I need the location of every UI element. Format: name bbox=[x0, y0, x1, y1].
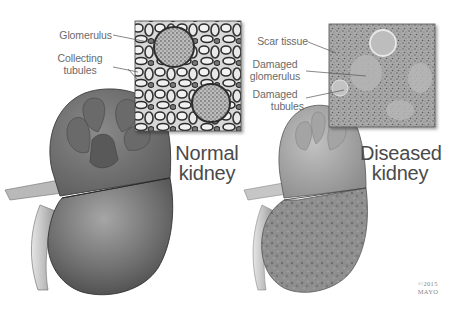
diseased-kidney bbox=[244, 105, 367, 292]
title-diseased-line2: kidney bbox=[360, 163, 440, 184]
copyright-year: ©2015 bbox=[410, 280, 446, 288]
label-damaged-glomerulus-line2: glomerulus bbox=[246, 70, 304, 82]
label-damaged-glomerulus-line1: Damaged bbox=[246, 58, 304, 70]
label-glomerulus: Glomerulus bbox=[50, 29, 112, 41]
kidney-comparison-illustration: Glomerulus Collecting tubules Normal kid… bbox=[0, 0, 463, 313]
copyright-owner: MAYO bbox=[410, 288, 446, 296]
label-damaged-tubules-line1: Damaged bbox=[246, 88, 304, 100]
title-diseased-line1: Diseased bbox=[360, 143, 440, 164]
label-collecting-tubules-line1: Collecting bbox=[50, 52, 110, 64]
damaged-glomerulus bbox=[350, 55, 382, 91]
title-normal-line2: kidney bbox=[172, 163, 242, 184]
damaged-glomerulus-small bbox=[370, 30, 396, 56]
normal-tissue-micrograph bbox=[135, 21, 241, 131]
label-collecting-tubules-line2: tubules bbox=[50, 64, 110, 76]
label-scar-tissue: Scar tissue bbox=[246, 35, 308, 47]
diseased-tissue-micrograph bbox=[329, 24, 435, 127]
glomerulus-2 bbox=[192, 84, 230, 122]
normal-kidney-exterior bbox=[48, 178, 173, 295]
label-damaged-tubules-line2: tubules bbox=[246, 100, 304, 112]
title-normal-line1: Normal bbox=[172, 143, 242, 164]
glomerulus-1 bbox=[154, 27, 194, 67]
diseased-kidney-exterior bbox=[262, 188, 368, 292]
